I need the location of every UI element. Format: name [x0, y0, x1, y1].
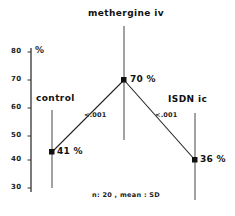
value-label-control: 41 %: [57, 147, 83, 156]
ytick-label-30: 30: [11, 184, 21, 191]
line-segment-methergine-isdn: [124, 80, 195, 160]
ytick-label-70: 70: [11, 76, 21, 83]
ytick-label-80: 80: [11, 48, 21, 55]
p-value-left: <.001: [84, 112, 106, 119]
data-point-isdn: [192, 157, 198, 163]
chart-figure: 80 70 60 50 40 30 % control methergine i…: [0, 0, 235, 216]
ytick-label-40: 40: [11, 156, 21, 163]
ytick-label-50: 50: [11, 132, 21, 139]
group-label-isdn: ISDN ic: [168, 95, 207, 104]
data-point-control: [49, 149, 55, 155]
group-label-methergine: methergine iv: [88, 9, 164, 18]
p-value-right: <.001: [155, 112, 177, 119]
chart-caption: n: 20 , mean : SD: [92, 192, 160, 199]
chart-plot-area: [0, 0, 235, 216]
value-label-isdn: 36 %: [200, 155, 226, 164]
data-point-methergine: [121, 77, 127, 83]
y-axis-unit-label: %: [35, 46, 44, 55]
ytick-label-60: 60: [11, 104, 21, 111]
value-label-methergine: 70 %: [130, 75, 156, 84]
group-label-control: control: [36, 94, 75, 103]
